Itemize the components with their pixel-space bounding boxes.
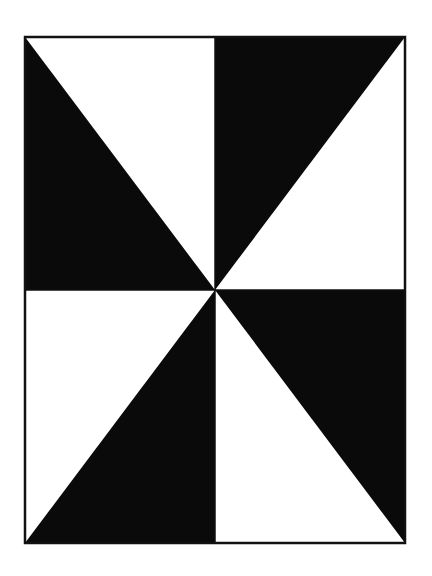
pinwheel-figure [0, 0, 432, 576]
